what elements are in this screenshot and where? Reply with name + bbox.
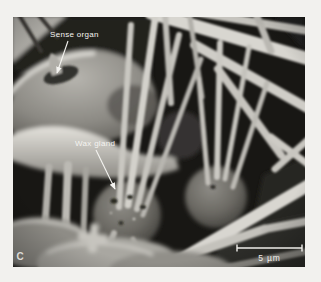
wax-gland-label: Wax gland (75, 139, 115, 148)
sense-organ-label: Sense organ (50, 30, 99, 39)
sem-micrograph: Sense organ Wax gland C 5 µm (13, 17, 305, 267)
micrograph-canvas: Sense organ Wax gland C 5 µm (13, 17, 305, 267)
scanned-page: { "page": { "background_color": "#f2f1ee… (0, 0, 321, 282)
panel-letter: C (17, 251, 24, 262)
vignette (13, 17, 305, 267)
scale-bar-label: 5 µm (258, 253, 280, 263)
